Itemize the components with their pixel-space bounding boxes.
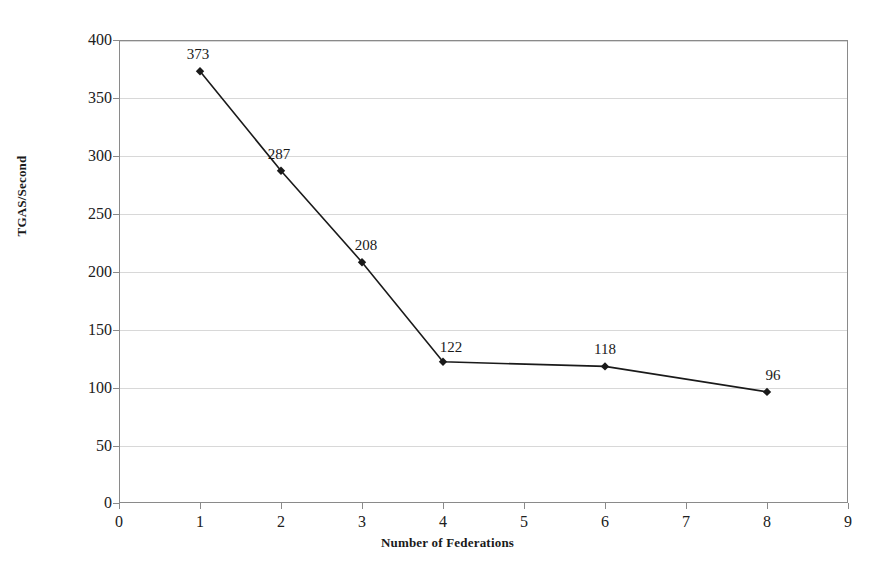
y-tick-mark-100 — [113, 388, 119, 389]
y-tick-label-50: 50 — [68, 438, 112, 454]
y-tick-mark-200 — [113, 272, 119, 273]
x-tick-mark-4 — [443, 503, 444, 509]
x-tick-label-7: 7 — [666, 513, 706, 531]
x-tick-mark-3 — [362, 503, 363, 509]
gridline-200 — [120, 272, 847, 273]
y-tick-label-400: 400 — [68, 32, 112, 48]
x-axis-title: Number of Federations — [0, 535, 895, 551]
y-tick-label-0: 0 — [68, 495, 112, 511]
y-tick-label-350: 350 — [68, 90, 112, 106]
x-tick-label-6: 6 — [585, 513, 625, 531]
gridline-50 — [120, 446, 847, 447]
data-point-label: 118 — [575, 342, 635, 357]
x-tick-mark-6 — [605, 503, 606, 509]
plot-area — [119, 40, 848, 503]
data-point-label: 287 — [249, 147, 309, 162]
y-tick-label-150: 150 — [68, 322, 112, 338]
gridline-150 — [120, 330, 847, 331]
x-tick-label-1: 1 — [180, 513, 220, 531]
x-tick-label-8: 8 — [747, 513, 787, 531]
x-tick-mark-0 — [119, 503, 120, 509]
x-tick-mark-7 — [686, 503, 687, 509]
y-tick-label-250: 250 — [68, 206, 112, 222]
gridline-250 — [120, 214, 847, 215]
data-point-label: 96 — [743, 368, 803, 383]
data-point-label: 208 — [336, 238, 396, 253]
x-tick-label-2: 2 — [261, 513, 301, 531]
y-tick-mark-400 — [113, 40, 119, 41]
data-point-label: 122 — [421, 340, 481, 355]
x-tick-mark-5 — [524, 503, 525, 509]
x-tick-mark-1 — [200, 503, 201, 509]
gridline-350 — [120, 98, 847, 99]
x-tick-label-0: 0 — [99, 513, 139, 531]
x-tick-mark-9 — [848, 503, 849, 509]
y-axis-title: TGAS/Second — [14, 96, 30, 296]
data-point-label: 373 — [168, 47, 228, 62]
y-tick-label-100: 100 — [68, 380, 112, 396]
y-tick-label-300: 300 — [68, 148, 112, 164]
y-tick-mark-50 — [113, 446, 119, 447]
y-tick-mark-150 — [113, 330, 119, 331]
x-tick-mark-8 — [767, 503, 768, 509]
gridline-300 — [120, 156, 847, 157]
x-tick-label-5: 5 — [504, 513, 544, 531]
y-tick-mark-250 — [113, 214, 119, 215]
x-tick-label-3: 3 — [342, 513, 382, 531]
x-tick-label-9: 9 — [828, 513, 868, 531]
line-chart: 400 350 300 250 200 150 100 50 0 TGAS/Se… — [0, 0, 895, 572]
x-tick-label-4: 4 — [423, 513, 463, 531]
gridline-100 — [120, 388, 847, 389]
y-tick-mark-350 — [113, 98, 119, 99]
y-tick-label-200: 200 — [68, 264, 112, 280]
y-axis-tick-labels: 400 350 300 250 200 150 100 50 0 — [60, 0, 112, 572]
x-tick-mark-2 — [281, 503, 282, 509]
gridline-400 — [120, 41, 847, 42]
y-tick-mark-300 — [113, 156, 119, 157]
